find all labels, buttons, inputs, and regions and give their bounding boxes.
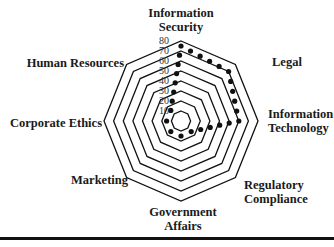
category-label: GovernmentAffairs: [149, 205, 217, 233]
data-point: [177, 53, 182, 58]
tick-label: 20: [159, 95, 169, 106]
data-point: [217, 123, 222, 128]
category-label: Human Resources: [27, 56, 124, 70]
data-point: [189, 129, 194, 134]
tick-label: 70: [159, 45, 169, 56]
tick-label: 60: [159, 55, 169, 66]
data-point: [168, 108, 173, 113]
category-label: Corporate Ethics: [10, 116, 102, 130]
grid-ring: [143, 81, 220, 161]
grid-ring: [171, 111, 190, 131]
data-point: [188, 49, 193, 54]
data-point: [164, 118, 169, 123]
tick-label: 40: [159, 75, 169, 86]
tick-label: 50: [159, 65, 169, 76]
data-point: [234, 109, 239, 114]
data-point: [176, 62, 181, 67]
data-point: [217, 64, 222, 69]
data-point: [198, 127, 203, 132]
data-point: [174, 71, 179, 76]
radar-chart: 1020304050607080 InformationSecurityLega…: [0, 0, 334, 247]
grid-ring: [133, 71, 229, 171]
data-point: [178, 133, 183, 138]
data-point: [226, 69, 231, 74]
bottom-divider: [0, 237, 334, 240]
data-point: [236, 118, 241, 123]
tick-label: 10: [159, 105, 169, 116]
data-point: [232, 99, 237, 104]
data-point: [227, 121, 232, 126]
data-point: [178, 43, 183, 48]
category-label: InformationTechnology: [268, 107, 333, 135]
category-label: Marketing: [71, 173, 129, 187]
grid-ring: [123, 61, 239, 181]
data-point: [198, 54, 203, 59]
data-point: [168, 129, 173, 134]
radial-tick-labels: 1020304050607080: [159, 35, 169, 116]
data-point: [170, 99, 175, 104]
category-label: InformationSecurity: [148, 6, 213, 34]
data-point: [171, 89, 176, 94]
tick-label: 80: [159, 35, 169, 46]
data-point: [208, 125, 213, 130]
data-point: [173, 80, 178, 85]
data-point: [207, 59, 212, 64]
data-point: [230, 89, 235, 94]
category-label: RegulatoryCompliance: [244, 178, 308, 206]
category-label: Legal: [272, 55, 302, 69]
tick-label: 30: [159, 85, 169, 96]
data-point: [228, 79, 233, 84]
